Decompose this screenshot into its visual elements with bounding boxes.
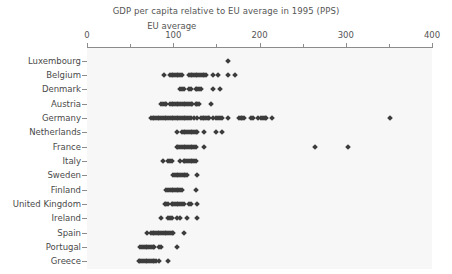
x-tick-minor [389, 44, 390, 48]
x-tick-label: 200 [251, 30, 267, 40]
category-tick [82, 147, 87, 148]
category-label: Denmark [42, 84, 81, 94]
category-tick [82, 233, 87, 234]
category-label: Belgium [46, 70, 81, 80]
x-tick-label: 400 [424, 30, 440, 40]
category-tick [82, 204, 87, 205]
chart-root: GDP per capita relative to EU average in… [0, 0, 452, 274]
category-tick [82, 75, 87, 76]
category-label: Portugal [46, 242, 81, 252]
category-tick [82, 132, 87, 133]
category-tick [82, 89, 87, 90]
category-tick [82, 161, 87, 162]
category-tick [82, 261, 87, 262]
x-tick-major [432, 43, 433, 48]
plot-area-background [87, 48, 432, 269]
x-tick-major [173, 43, 174, 48]
category-label: Ireland [52, 213, 81, 223]
category-label: Germany [42, 113, 81, 123]
category-tick [82, 104, 87, 105]
x-tick-label: 100 [165, 30, 181, 40]
category-label: Finland [51, 185, 81, 195]
x-tick-label: 0 [84, 30, 89, 40]
category-label: Netherlands [29, 127, 81, 137]
category-label: Italy [63, 156, 81, 166]
x-tick-minor [130, 44, 131, 48]
category-tick [82, 247, 87, 248]
category-label: Luxembourg [28, 56, 81, 66]
category-label: Greece [51, 256, 81, 266]
category-label: Spain [57, 228, 81, 238]
chart-title: GDP per capita relative to EU average in… [0, 6, 452, 16]
category-label: Austria [51, 99, 81, 109]
x-tick-minor [303, 44, 304, 48]
category-tick [82, 175, 87, 176]
x-tick-major [87, 43, 88, 48]
x-tick-label: 300 [338, 30, 354, 40]
x-tick-major [346, 43, 347, 48]
x-tick-minor [216, 44, 217, 48]
category-label: United Kingdom [13, 199, 81, 209]
category-tick [82, 118, 87, 119]
category-tick [82, 218, 87, 219]
category-tick [82, 61, 87, 62]
category-tick [82, 190, 87, 191]
category-label: France [53, 142, 81, 152]
x-tick-major [260, 43, 261, 48]
category-label: Sweden [47, 170, 81, 180]
